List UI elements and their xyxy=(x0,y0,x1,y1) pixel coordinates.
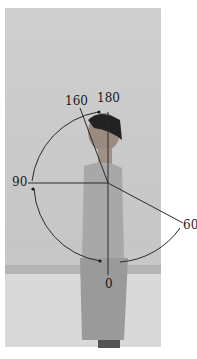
label-180: 180 xyxy=(97,92,120,104)
label-90: 90 xyxy=(12,176,27,188)
label-0: 0 xyxy=(105,278,113,290)
rom-diagram xyxy=(0,0,197,359)
label-60: 60 xyxy=(183,219,197,231)
person-silhouette xyxy=(80,113,128,348)
label-160: 160 xyxy=(65,95,88,107)
